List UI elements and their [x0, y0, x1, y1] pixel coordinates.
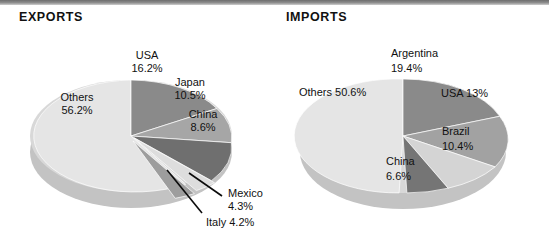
label-argentina-name: Argentina [391, 47, 439, 59]
label-usa-name: USA [136, 49, 159, 61]
label-usa-imports: USA 13% [441, 87, 488, 99]
label-others-pct: 56.2% [61, 104, 92, 116]
label-argentina-pct: 19.4% [391, 62, 422, 74]
label-mexico-pct: 4.3% [228, 200, 253, 212]
label-usa-pct: 16.2% [131, 62, 162, 74]
label-others-imports: Others 50.6% [299, 86, 366, 98]
label-brazil-name: Brazil [442, 125, 470, 137]
label-brazil-pct: 10.4% [442, 140, 473, 152]
label-china-pct-imports: 6.6% [386, 170, 411, 182]
chart-panel-exports: EXPORTS [0, 0, 275, 238]
label-china-name: China [189, 108, 219, 120]
pie-chart-exports: USA 16.2% Japan 10.5% China 8.6% Others … [0, 0, 275, 238]
label-japan-pct: 10.5% [174, 89, 205, 101]
pie-chart-imports: Argentina 19.4% USA 13% Brazil 10.4% Chi… [275, 0, 549, 238]
label-china-name-imports: China [386, 155, 416, 167]
label-japan-name: Japan [175, 76, 205, 88]
label-italy: Italy 4.2% [206, 216, 255, 228]
label-mexico-name: Mexico [228, 187, 263, 199]
label-others-name: Others [60, 91, 94, 103]
chart-panel-imports: IMPORTS Argentina 19.4 [275, 0, 549, 238]
label-china-pct: 8.6% [190, 121, 215, 133]
